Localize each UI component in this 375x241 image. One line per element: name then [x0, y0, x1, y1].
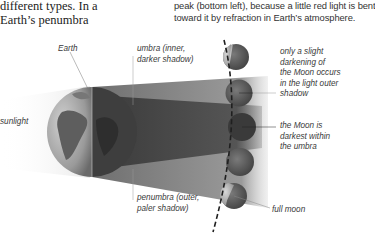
label-darkest: the Moon is darkest within the umbra: [280, 121, 330, 153]
label-earth: Earth: [58, 44, 78, 55]
label-full-moon: full moon: [272, 205, 305, 216]
label-penumbra: penumbra (outer, paler shadow): [137, 193, 199, 214]
moon-penumbra-lower: [226, 148, 254, 176]
label-sunlight: sunlight: [0, 117, 28, 128]
label-slight-darkening: only a slight darkening of the Moon occu…: [280, 47, 341, 100]
label-umbra: umbra (inner, darker shadow): [137, 44, 193, 65]
earth-leader-line: [70, 52, 88, 89]
